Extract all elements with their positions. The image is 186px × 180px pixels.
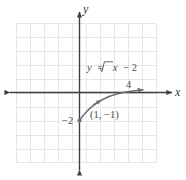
point-label: (1, −1) bbox=[90, 109, 119, 121]
x-axis-label: x bbox=[174, 85, 181, 99]
equation-radicand: x bbox=[112, 62, 118, 73]
graph-figure: x y −2 4 (1, −1) y = x − 2 bbox=[0, 0, 186, 180]
y-intercept-point bbox=[77, 118, 81, 122]
graph-canvas: x y −2 4 (1, −1) y = x − 2 bbox=[0, 0, 186, 180]
y-intercept-label: −2 bbox=[62, 115, 73, 126]
equation-label: y = x − 2 bbox=[86, 62, 137, 73]
curve-direction-arrow bbox=[93, 101, 100, 105]
y-axis-label: y bbox=[82, 2, 89, 16]
svg-text:y = x: y = x − 2 bbox=[86, 62, 137, 73]
equation-lhs: y bbox=[86, 62, 92, 73]
equation-tail: − 2 bbox=[123, 62, 137, 73]
axes bbox=[10, 12, 172, 170]
x-intercept-label: 4 bbox=[126, 79, 132, 90]
